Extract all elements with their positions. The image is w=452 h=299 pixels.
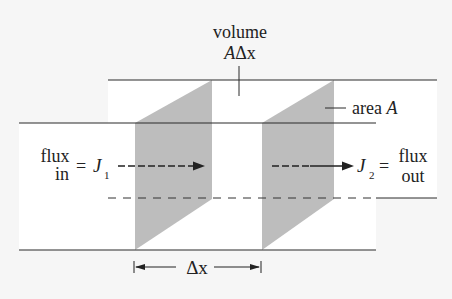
flux-out-bottom: out: [401, 166, 424, 186]
dx-arrowhead-left: [135, 264, 145, 270]
j1-subscript: 1: [104, 169, 110, 181]
volume-delta-x: Δx: [235, 43, 256, 63]
volume-formula: AΔx: [223, 43, 256, 63]
dx-arrowhead-right: [250, 264, 260, 270]
flux-in-equals: =: [76, 156, 86, 176]
delta-x-label: Δx: [186, 257, 208, 278]
diagram-canvas: volume AΔx area A flux in = J 1 J 2 = fl…: [0, 0, 452, 299]
flux-diagram: volume AΔx area A flux in = J 1 J 2 = fl…: [0, 0, 452, 299]
flux-out-top: flux: [399, 146, 428, 166]
flux-out-equals: =: [379, 156, 389, 176]
flux-in-top: flux: [41, 146, 70, 166]
j2-subscript: 2: [369, 169, 375, 181]
volume-label: volume: [213, 22, 267, 42]
area-label: area A: [352, 98, 398, 118]
flux-in-bottom: in: [55, 164, 69, 184]
